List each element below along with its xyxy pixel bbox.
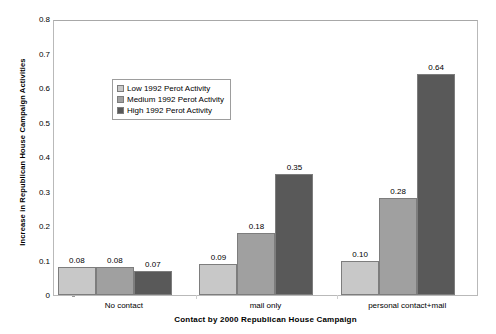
legend-item[interactable]: Low 1992 Perot Activity xyxy=(117,83,224,94)
bar[interactable] xyxy=(379,198,417,295)
y-axis-tick-labels: 0.80.70.60.50.40.30.20.10 xyxy=(22,20,50,296)
x-axis-tick-label: personal contact+mail xyxy=(336,301,478,311)
legend-label: High 1992 Perot Activity xyxy=(127,105,212,116)
y-axis-tick-label: 0.7 xyxy=(22,51,50,59)
legend-label: Medium 1992 Perot Activity xyxy=(127,94,224,105)
bar[interactable] xyxy=(341,261,379,296)
legend-label: Low 1992 Perot Activity xyxy=(127,83,210,94)
plot-area: 0.080.080.070.090.180.350.100.280.64 Low… xyxy=(53,20,478,296)
legend-item[interactable]: High 1992 Perot Activity xyxy=(117,105,224,116)
x-axis-category-tick xyxy=(337,295,338,299)
chart-legend: Low 1992 Perot ActivityMedium 1992 Perot… xyxy=(112,79,231,120)
y-axis-tick-label: 0.2 xyxy=(22,223,50,231)
bar[interactable] xyxy=(275,174,313,295)
bar-group: 0.100.280.64 xyxy=(337,21,479,295)
bar-column[interactable]: 0.09 xyxy=(199,264,237,295)
x-axis-tick-label: mail only xyxy=(195,301,337,311)
y-axis-tick-label: 0.5 xyxy=(22,120,50,128)
x-axis-category-tick xyxy=(196,295,197,299)
bar[interactable] xyxy=(237,233,275,295)
bar-column[interactable]: 0.07 xyxy=(134,271,172,295)
bar-column[interactable]: 0.64 xyxy=(417,74,455,295)
legend-swatch-icon xyxy=(117,96,124,103)
x-axis-tick-labels: No contactmail onlypersonal contact+mail xyxy=(53,301,478,315)
bar[interactable] xyxy=(199,264,237,295)
bar-column[interactable]: 0.08 xyxy=(58,267,96,295)
bar-group: 0.090.180.35 xyxy=(196,21,338,295)
bar-group: 0.080.080.07 xyxy=(54,21,196,295)
legend-swatch-icon xyxy=(117,107,124,114)
y-axis-tick-label: 0.3 xyxy=(22,189,50,197)
bar-value-label: 0.35 xyxy=(268,163,320,172)
y-axis-tick-label: 0.8 xyxy=(22,16,50,24)
y-axis-tick-label: 0.6 xyxy=(22,85,50,93)
bar[interactable] xyxy=(58,267,96,295)
bar[interactable] xyxy=(96,267,134,295)
x-axis-tick-label: No contact xyxy=(53,301,195,311)
y-axis-tick-mark xyxy=(72,296,75,297)
x-axis-title: Contact by 2000 Republican House Campaig… xyxy=(53,315,478,325)
legend-swatch-icon xyxy=(117,85,124,92)
bar[interactable] xyxy=(134,271,172,295)
bar-chart-figure: Increase in Republican House Campaign Ac… xyxy=(0,0,496,334)
y-axis-tick-label: 0.1 xyxy=(22,258,50,266)
bar-value-label: 0.64 xyxy=(410,63,462,72)
bar-column[interactable]: 0.28 xyxy=(379,198,417,295)
y-axis-tick-label: 0 xyxy=(22,292,50,300)
bar-column[interactable]: 0.10 xyxy=(341,261,379,296)
bar-column[interactable]: 0.35 xyxy=(275,174,313,295)
y-axis-tick-label: 0.4 xyxy=(22,154,50,162)
bar-column[interactable]: 0.08 xyxy=(96,267,134,295)
plot-inner: 0.080.080.070.090.180.350.100.280.64 xyxy=(54,21,477,295)
legend-item[interactable]: Medium 1992 Perot Activity xyxy=(117,94,224,105)
bar-column[interactable]: 0.18 xyxy=(237,233,275,295)
bar-value-label: 0.07 xyxy=(127,260,179,269)
bar[interactable] xyxy=(417,74,455,295)
